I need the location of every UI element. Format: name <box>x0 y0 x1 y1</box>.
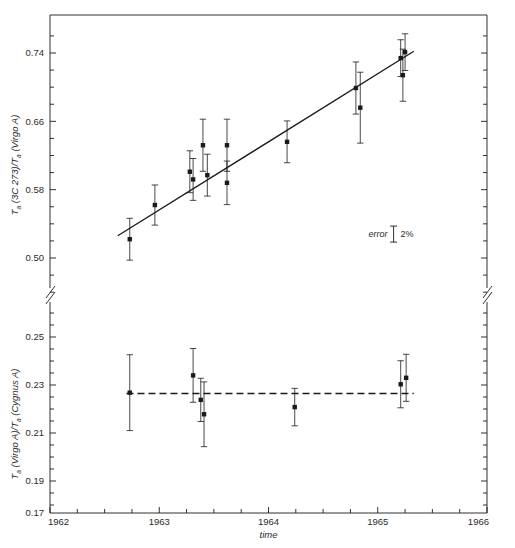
x-tick-label-1966: 1966 <box>468 516 489 527</box>
upper-data-point <box>188 170 192 174</box>
upper-data-point <box>205 173 209 177</box>
x-tick-label-1965: 1965 <box>367 516 388 527</box>
error-annotation-label: error <box>369 229 389 239</box>
lower-y-tick-label-0.25: 0.25 <box>26 331 45 342</box>
upper-data-point <box>201 143 205 147</box>
lower-y-tick-label-0.23: 0.23 <box>26 379 45 390</box>
axis-break-right-slash-2 <box>483 292 492 304</box>
x-axis-title: time <box>260 529 278 540</box>
lower-panel-data <box>126 349 413 447</box>
upper-data-point <box>153 203 157 207</box>
upper-data-point <box>128 237 132 241</box>
upper-y-tick-label-0.66: 0.66 <box>26 116 45 127</box>
upper-data-point <box>358 105 362 109</box>
upper-y-axis-title: Ta (3C 273)/Ta (Virgo A) <box>9 115 22 216</box>
x-tick-label-1964: 1964 <box>258 516 279 527</box>
lower-data-point <box>191 373 195 377</box>
lower-y-axis-title: Ta (Virgo A)/Ta (Cygnus A) <box>9 369 22 480</box>
axis-labels: Ta (3C 273)/Ta (Virgo A)Ta (Virgo A)/Ta … <box>9 115 22 480</box>
chart-svg: 19621963196419651966time 0.500.580.660.7… <box>0 0 515 548</box>
upper-fit-line-solid <box>118 51 414 236</box>
x-tick-label-1962: 1962 <box>48 516 69 527</box>
upper-y-tick-label-0.74: 0.74 <box>26 47 45 58</box>
error-annotation-value: 2% <box>401 229 414 239</box>
upper-data-point <box>398 56 402 60</box>
upper-y-tick-label-0.58: 0.58 <box>26 184 45 195</box>
upper-panel-y-axis: 0.500.580.660.74 <box>26 36 488 292</box>
upper-data-point <box>403 50 407 54</box>
lower-data-point <box>202 412 206 416</box>
figure-container: 19621963196419651966time 0.500.580.660.7… <box>0 0 515 548</box>
x-tick-label-1963: 1963 <box>149 516 170 527</box>
lower-data-point <box>293 405 297 409</box>
lower-data-point <box>128 390 132 394</box>
axis-break-left-slash-2 <box>46 292 55 304</box>
upper-data-point <box>354 86 358 90</box>
lower-y-tick-label-0.21: 0.21 <box>26 427 45 438</box>
upper-panel-data <box>118 34 414 260</box>
upper-data-point <box>225 143 229 147</box>
upper-y-tick-label-0.50: 0.50 <box>26 252 45 263</box>
upper-data-point <box>225 181 229 185</box>
x-axis: 19621963196419651966time <box>48 507 489 540</box>
plot-frame <box>50 15 487 513</box>
axis-break-marks <box>46 286 492 304</box>
lower-data-point <box>199 398 203 402</box>
lower-panel-y-axis: 0.190.210.230.250.17 <box>26 313 488 518</box>
error-annotation: error2% <box>369 226 414 242</box>
lower-y-tick-label-0.19: 0.19 <box>26 475 45 486</box>
lower-data-point <box>398 382 402 386</box>
upper-data-point <box>191 177 195 181</box>
lower-y-tick-label-0.17: 0.17 <box>26 507 45 518</box>
lower-data-point <box>404 376 408 380</box>
upper-data-point <box>285 140 289 144</box>
upper-data-point <box>401 73 405 77</box>
